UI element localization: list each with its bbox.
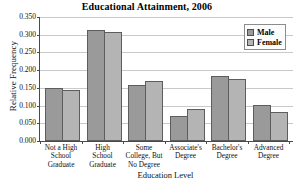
x-axis-category-line: No Degree (120, 161, 168, 169)
y-axis-tick-mark (37, 88, 40, 89)
legend-swatch-icon (247, 29, 254, 36)
chart-figure: Educational Attainment, 2006 Relative Fr… (0, 0, 294, 188)
legend-swatch-icon (247, 39, 254, 46)
y-axis-tick-label: 0.000 (19, 137, 36, 145)
y-axis-tick-mark (37, 106, 40, 107)
bar-male[interactable] (87, 30, 105, 141)
bar-male[interactable] (45, 88, 63, 141)
x-axis-category-label: AdvancedDegree (245, 144, 293, 161)
legend-item-male[interactable]: Male (247, 27, 282, 37)
bar-male[interactable] (211, 76, 229, 141)
y-axis-tick-mark (37, 52, 40, 53)
chart-legend: MaleFemale (244, 24, 286, 50)
y-axis-tick-label: 0.250 (19, 49, 36, 57)
y-axis-title: Relative Frequency (8, 6, 18, 146)
bar-male[interactable] (128, 85, 146, 141)
y-axis-tick-label: 0.050 (19, 120, 36, 128)
legend-label: Male (257, 28, 274, 37)
y-axis-tick-mark (37, 70, 40, 71)
y-axis-tick-label: 0.300 (19, 31, 36, 39)
y-axis-tick-label: 0.100 (19, 102, 36, 110)
bar-female[interactable] (62, 90, 80, 141)
y-axis-tick-label: 0.350 (19, 13, 36, 21)
bar-male[interactable] (253, 105, 271, 141)
bar-female[interactable] (270, 112, 288, 141)
bar-female[interactable] (228, 79, 246, 141)
bar-female[interactable] (104, 32, 122, 141)
chart-title: Educational Attainment, 2006 (0, 1, 294, 12)
bar-female[interactable] (145, 81, 163, 141)
y-axis-tick-label: 0.200 (19, 66, 36, 74)
gridline (40, 88, 293, 89)
gridline (40, 70, 293, 71)
y-axis-tick-mark (37, 17, 40, 18)
gridline (40, 17, 293, 18)
bar-male[interactable] (170, 116, 188, 141)
gridline (40, 52, 293, 53)
y-axis-tick-mark (37, 123, 40, 124)
legend-item-female[interactable]: Female (247, 37, 282, 47)
x-axis-title: Education Level (39, 170, 292, 180)
y-axis-tick-mark (37, 35, 40, 36)
x-axis-category-line: Degree (245, 152, 293, 160)
legend-label: Female (257, 38, 282, 47)
bar-female[interactable] (187, 109, 205, 141)
y-axis-tick-label: 0.150 (19, 84, 36, 92)
